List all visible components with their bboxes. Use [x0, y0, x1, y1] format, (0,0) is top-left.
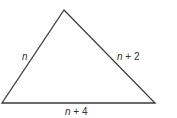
left-side-label: n — [22, 51, 28, 62]
right-side-label: n + 2 — [117, 51, 140, 62]
bottom-side-label: n + 4 — [65, 106, 88, 117]
triangle-diagram: n n + 2 n + 4 — [0, 0, 177, 118]
